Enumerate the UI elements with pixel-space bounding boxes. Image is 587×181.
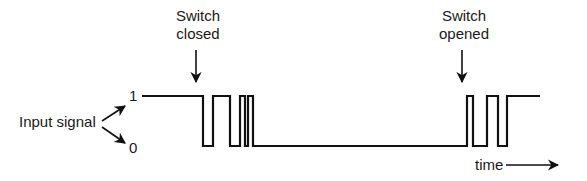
arrow-to-low-icon xyxy=(102,127,125,143)
switch-opened-line2: opened xyxy=(434,25,494,43)
switch-closed-line2: closed xyxy=(172,25,224,43)
arrow-to-high-icon xyxy=(102,106,125,121)
switch-closed-line1: Switch xyxy=(172,7,224,25)
timing-diagram xyxy=(0,0,587,181)
level-low-label: 0 xyxy=(129,139,137,157)
input-signal-label: Input signal xyxy=(19,113,96,131)
signal-waveform xyxy=(142,96,540,146)
level-high-label: 1 xyxy=(129,87,137,105)
switch-opened-label: Switch opened xyxy=(434,7,494,43)
switch-closed-label: Switch closed xyxy=(172,7,224,43)
time-label: time xyxy=(475,156,503,174)
switch-opened-line1: Switch xyxy=(434,7,494,25)
